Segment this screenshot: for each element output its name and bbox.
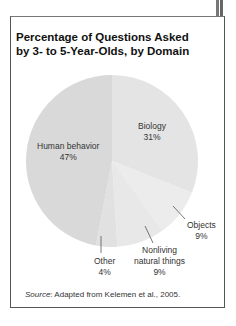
source-note: Source: Adapted from Kelemen et al., 200… (25, 290, 180, 299)
label-human-behavior: Human behavior 47% (37, 141, 99, 163)
label-other: Other 4% (94, 256, 115, 278)
label-nonliving-natural-things: Nonliving natural things 9% (134, 245, 185, 278)
label-objects: Objects 9% (187, 220, 216, 242)
label-biology: Biology 31% (138, 121, 166, 143)
pie-chart (0, 0, 236, 326)
